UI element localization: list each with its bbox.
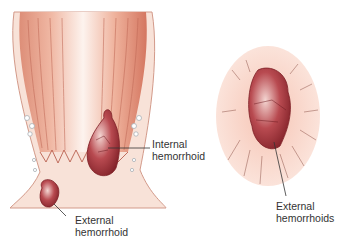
anal-view bbox=[216, 46, 320, 186]
label-line: External bbox=[276, 200, 334, 212]
label-line: Internal bbox=[152, 138, 205, 150]
label-line: hemorrhoid bbox=[75, 226, 128, 238]
hemorrhoid-diagram: Internal hemorrhoid External hemorrhoid … bbox=[0, 0, 346, 244]
external-hemorrhoid-left-label: External hemorrhoid bbox=[75, 214, 128, 238]
internal-hemorrhoid-label: Internal hemorrhoid bbox=[152, 138, 205, 162]
external-hemorrhoids-right-label: External hemorrhoids bbox=[276, 200, 334, 224]
rectal-canal bbox=[10, 12, 166, 208]
label-line: External bbox=[75, 214, 128, 226]
label-line: hemorrhoids bbox=[276, 212, 334, 224]
label-line: hemorrhoid bbox=[152, 150, 205, 162]
